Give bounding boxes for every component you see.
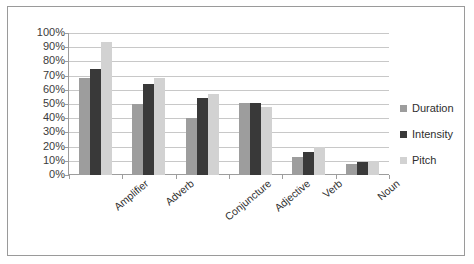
y-tick-label: 0%: [25, 169, 65, 180]
bar-intensity-adverb[interactable]: [143, 84, 154, 175]
legend-item-intensity[interactable]: Intensity: [400, 128, 470, 140]
x-tick-label: Verb: [320, 177, 344, 200]
chart-legend: DurationIntensityPitch: [400, 102, 470, 180]
x-tick-label: Conjuncture: [222, 177, 273, 223]
x-tick-label: Amplifier: [112, 177, 151, 212]
y-tick-label: 90%: [25, 41, 65, 52]
x-tick-label: Adjective: [272, 177, 312, 214]
bar-pitch-amplifier[interactable]: [101, 42, 112, 175]
bar-duration-noun[interactable]: [346, 164, 357, 175]
y-tick-label: 80%: [25, 55, 65, 66]
bar-pitch-verb[interactable]: [314, 147, 325, 175]
legend-item-duration[interactable]: Duration: [400, 102, 470, 114]
bar-pitch-noun[interactable]: [368, 161, 379, 175]
y-tick-label: 10%: [25, 155, 65, 166]
y-tick-label: 70%: [25, 70, 65, 81]
x-tick-label: Adverb: [163, 177, 196, 208]
legend-item-pitch[interactable]: Pitch: [400, 154, 470, 166]
bar-duration-amplifier[interactable]: [79, 78, 90, 175]
bar-intensity-noun[interactable]: [357, 162, 368, 175]
bar-group: [69, 33, 122, 175]
bar-intensity-amplifier[interactable]: [90, 69, 101, 176]
bar-group: [336, 33, 389, 175]
bar-intensity-verb[interactable]: [303, 152, 314, 175]
x-tick-label: Noun: [375, 177, 402, 202]
y-tick-label: 30%: [25, 126, 65, 137]
legend-swatch-icon: [400, 105, 407, 112]
bar-pitch-adverb[interactable]: [154, 78, 165, 175]
bar-group: [122, 33, 175, 175]
y-tick-label: 100%: [25, 27, 65, 38]
bar-duration-adverb[interactable]: [132, 104, 143, 175]
chart-frame: 100%90%80%70%60%50%40%30%20%10%0% Amplif…: [7, 6, 465, 256]
bar-duration-verb[interactable]: [292, 157, 303, 175]
y-tick-label: 40%: [25, 112, 65, 123]
legend-label: Intensity: [412, 128, 453, 140]
legend-swatch-icon: [400, 157, 407, 164]
plot-area: [69, 33, 389, 175]
legend-swatch-icon: [400, 131, 407, 138]
y-tick-label: 20%: [25, 141, 65, 152]
bar-intensity-adjective[interactable]: [250, 103, 261, 175]
y-axis: 100%90%80%70%60%50%40%30%20%10%0%: [22, 33, 65, 175]
legend-label: Duration: [412, 102, 454, 114]
x-axis: AmplifierAdverbConjunctureAdjectiveVerbN…: [69, 177, 389, 239]
bar-pitch-conjuncture[interactable]: [208, 94, 219, 175]
bar-duration-conjuncture[interactable]: [186, 118, 197, 175]
bar-group: [176, 33, 229, 175]
bar-group: [229, 33, 282, 175]
y-tick-label: 60%: [25, 84, 65, 95]
bar-pitch-adjective[interactable]: [261, 107, 272, 175]
x-tick-mark: [389, 175, 390, 179]
bar-intensity-conjuncture[interactable]: [197, 98, 208, 175]
y-tick-label: 50%: [25, 98, 65, 109]
bar-group: [282, 33, 335, 175]
legend-label: Pitch: [412, 154, 436, 166]
bar-duration-adjective[interactable]: [239, 103, 250, 175]
